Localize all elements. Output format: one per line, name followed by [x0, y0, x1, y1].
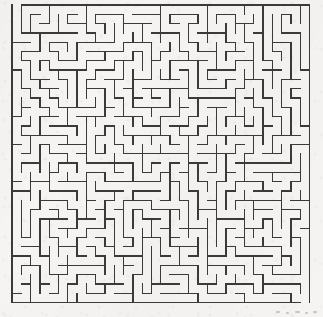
maze-wall-group	[12, 5, 310, 303]
maze-canvas	[0, 0, 323, 317]
maze-page	[0, 0, 323, 317]
